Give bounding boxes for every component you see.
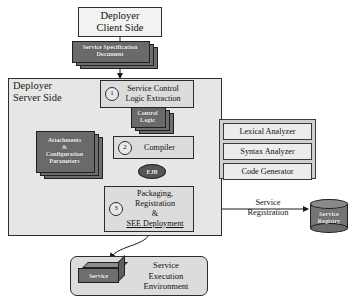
server-label-line1: Deployer [13,80,108,92]
deployer-server-side-label: Deployer Server Side [13,80,108,104]
service-registry-database[interactable]: Service Registry [310,199,348,233]
service-specification-document-label: Service Specification Document [72,41,148,61]
ejb-artifact[interactable]: EJB [138,164,166,179]
see-line1: Service [144,260,189,270]
client-box-line2: Client Side [97,22,144,34]
step-2-compiler[interactable]: 2 Compiler [113,136,194,159]
attachments-configuration-parameters-document[interactable]: Attachments & Configuration Parameters [36,131,102,176]
service-artifact-label: Service [89,272,108,279]
compiler-component-lexical-analyzer[interactable]: Lexical Analyzer [223,123,312,140]
step-1-service-control-logic-extraction[interactable]: 1 Service Control Logic Extraction [100,80,194,108]
control-logic-document-label: Control Logic [131,107,164,126]
service-execution-environment-label: Service Execution Environment [128,258,204,294]
ejb-label: EJB [146,169,157,175]
compiler-components-panel: Lexical Analyzer Syntax Analyzer Code Ge… [219,119,316,179]
control-logic-document[interactable]: Control Logic [131,107,173,129]
step-1-number: 1 [105,87,119,101]
step-3-line3: & [117,209,193,219]
step-3-number: 3 [109,202,123,216]
registry-line2: Registry [317,217,340,224]
step-2-line1: Compiler [126,143,193,153]
deployer-client-side-box[interactable]: Deployer Client Side [78,7,162,37]
server-label-line2: Server Side [13,92,108,104]
service-registration-line2: Registration [236,208,300,218]
step-2-number: 2 [118,141,132,155]
cube-front-face: Service [78,268,119,283]
attachments-line4: Parameters [46,158,83,165]
see-line2: Execution [144,271,189,281]
see-line3: Environment [144,281,189,291]
client-box-line1: Deployer [97,10,144,22]
step-3-line2: Registration [117,199,193,209]
step-3-line1: Packaging, [117,189,193,199]
compiler-component-code-generator[interactable]: Code Generator [223,163,312,180]
step-1-line1: Service Control [113,84,193,94]
deployed-service-artifact[interactable]: Service [78,262,126,288]
spec-doc-line2: Document [83,51,138,58]
cube-side-face [118,255,125,282]
service-registry-label: Service Registry [310,208,348,226]
service-specification-document[interactable]: Service Specification Document [72,41,158,63]
compiler-component-syntax-analyzer[interactable]: Syntax Analyzer [223,143,312,160]
step-3-packaging-registration-deployment[interactable]: 3 Packaging, Registration & SEE Deployme… [104,186,194,232]
service-registration-edge-label: Service Registration [236,198,300,218]
diagram-canvas: Deployer Server Side Deployer Client Sid… [0,0,360,304]
attachments-document-label: Attachments & Configuration Parameters [36,131,93,171]
step-3-line4: SEE Deployment [117,219,193,229]
control-logic-line2: Logic [137,117,158,124]
service-registration-line1: Service [236,198,300,208]
step-1-line2: Logic Extraction [113,94,193,104]
registry-line1: Service [317,210,340,217]
